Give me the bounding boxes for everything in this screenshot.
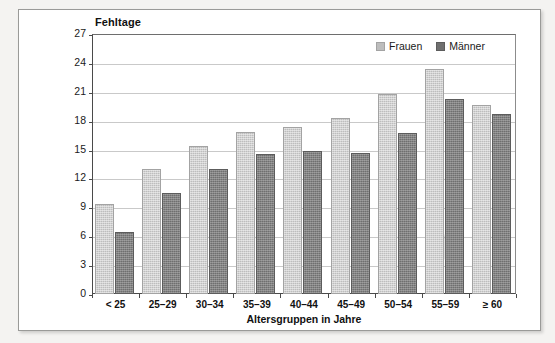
y-tick-label: 6 — [56, 229, 86, 241]
legend-label-frauen: Frauen — [389, 40, 422, 52]
bar-frauen — [95, 204, 114, 294]
x-tick-label: ≥ 60 — [468, 299, 516, 310]
bar-frauen — [425, 69, 444, 294]
x-tick-mark — [375, 294, 376, 298]
y-tick-label: 3 — [56, 258, 86, 270]
bar-maenner — [398, 133, 417, 294]
x-tick-label: 50–54 — [374, 299, 422, 310]
bar-group — [92, 34, 139, 294]
bar-frauen — [142, 169, 161, 294]
bar-frauen — [472, 105, 491, 294]
bar-frauen — [283, 127, 302, 294]
bar-frauen — [236, 132, 255, 294]
x-tick-mark — [186, 294, 187, 298]
scan-artifact — [444, 234, 451, 260]
y-tick-label: 27 — [56, 27, 86, 39]
x-tick-label: < 25 — [92, 299, 140, 310]
x-tick-mark — [516, 294, 517, 298]
y-tick-label: 0 — [56, 287, 86, 299]
bar-group — [469, 34, 516, 294]
bar-maenner — [492, 114, 511, 294]
bar-maenner — [115, 232, 134, 294]
bar-maenner — [303, 151, 322, 294]
bar-group — [280, 34, 327, 294]
y-axis-title: Fehltage — [95, 16, 141, 28]
x-tick-label: 30–34 — [186, 299, 234, 310]
y-tick-label: 15 — [56, 143, 86, 155]
bar-maenner — [445, 99, 464, 294]
x-tick-mark — [469, 294, 470, 298]
bar-frauen — [331, 118, 350, 294]
x-axis-title: Altersgruppen in Jahre — [92, 313, 516, 325]
x-tick-label: 45–49 — [327, 299, 375, 310]
legend-item-frauen: Frauen — [376, 40, 422, 52]
frauen-swatch-icon — [376, 42, 385, 51]
chart-legend: Frauen Männer — [376, 40, 485, 52]
bar-group — [139, 34, 186, 294]
x-tick-label: 40–44 — [280, 299, 328, 310]
x-tick-mark — [422, 294, 423, 298]
legend-item-maenner: Männer — [436, 40, 485, 52]
y-tick-label: 12 — [56, 171, 86, 183]
x-tick-label: 25–29 — [139, 299, 187, 310]
y-axis-tick-labels: 2724211815129630 — [52, 34, 86, 294]
x-tick-mark — [92, 294, 93, 298]
bar-maenner — [351, 153, 370, 294]
legend-label-maenner: Männer — [449, 40, 485, 52]
bar-groups — [92, 34, 516, 294]
bar-group — [328, 34, 375, 294]
x-tick-label: 35–39 — [233, 299, 281, 310]
y-tick-label: 9 — [56, 200, 86, 212]
x-tick-mark — [280, 294, 281, 298]
bar-frauen — [378, 94, 397, 294]
bar-chart: Fehltage 2724211815129630 < 2525–2930–34… — [19, 10, 540, 330]
x-tick-mark — [139, 294, 140, 298]
maenner-swatch-icon — [436, 42, 445, 51]
y-tick-label: 24 — [56, 56, 86, 68]
x-tick-label: 55–59 — [421, 299, 469, 310]
bar-frauen — [189, 146, 208, 294]
bar-maenner — [162, 193, 181, 294]
bar-group — [233, 34, 280, 294]
bar-maenner — [209, 169, 228, 294]
chart-sheet: Fehltage 2724211815129630 < 2525–2930–34… — [18, 9, 541, 331]
y-tick-label: 21 — [56, 85, 86, 97]
x-tick-mark — [328, 294, 329, 298]
bar-group — [375, 34, 422, 294]
x-tick-mark — [233, 294, 234, 298]
y-tick-label: 18 — [56, 114, 86, 126]
bar-group — [186, 34, 233, 294]
bar-maenner — [256, 154, 275, 294]
